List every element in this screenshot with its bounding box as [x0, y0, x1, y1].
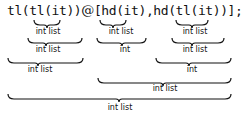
- type-label-l3-a: int list: [28, 65, 53, 74]
- type-label-l2-b: int: [120, 45, 130, 54]
- type-label-l1-c: int list: [183, 27, 208, 36]
- underbrace-l5: [8, 94, 231, 102]
- underbraces: [0, 0, 243, 118]
- type-label-l4: int list: [153, 84, 178, 93]
- type-label-l5: int list: [108, 103, 133, 112]
- type-label-l2-a: int list: [36, 45, 61, 54]
- type-label-l3-b: int: [187, 65, 197, 74]
- type-label-l2-c: int list: [183, 45, 208, 54]
- type-label-l1-a: int list: [36, 27, 61, 36]
- type-label-l1-b: int list: [109, 27, 134, 36]
